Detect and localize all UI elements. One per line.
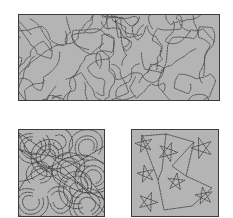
meander-stitch-line bbox=[111, 49, 196, 83]
paisley-swirl bbox=[19, 182, 53, 216]
paisley-swirl bbox=[50, 132, 68, 151]
paisley-stitch-line bbox=[19, 188, 47, 216]
star-connector-line bbox=[142, 134, 212, 210]
meander-stipple-panel: Meander stipple quilting pattern bbox=[18, 14, 220, 101]
paisley-swirl bbox=[21, 192, 42, 212]
meander-stitch-line bbox=[84, 17, 143, 34]
star-stitch bbox=[160, 143, 178, 162]
star-stitch bbox=[191, 138, 211, 159]
paisley-swirl bbox=[19, 188, 47, 216]
star-stitch bbox=[135, 135, 152, 152]
star-stitch-pattern bbox=[132, 130, 218, 216]
meander-stitch-line bbox=[139, 26, 163, 83]
meander-stitch-line bbox=[72, 15, 113, 54]
meander-stitch-line bbox=[32, 86, 64, 100]
meander-stitch-line bbox=[19, 52, 60, 90]
meander-stitch-line bbox=[19, 77, 20, 100]
meander-stitch-line bbox=[19, 15, 63, 46]
paisley-stitch-pattern bbox=[19, 130, 104, 216]
meander-stitch-line bbox=[130, 76, 165, 98]
meander-stitch-line bbox=[36, 71, 78, 100]
meander-stitch-line bbox=[19, 19, 52, 59]
meander-stitch-line bbox=[149, 15, 191, 31]
meander-stitch-pattern bbox=[19, 15, 219, 100]
meander-stitch-line bbox=[88, 41, 115, 96]
paisley-stitch-line bbox=[19, 182, 53, 216]
meander-stitch-line bbox=[165, 22, 214, 76]
paisley-stitch-line bbox=[50, 132, 68, 151]
stars-panel: Meandering stars quilting pattern bbox=[131, 129, 219, 217]
meander-stitch-line bbox=[112, 64, 139, 97]
paisley-stitch-line bbox=[82, 167, 104, 189]
star-connector-line bbox=[172, 142, 194, 176]
star-stitch bbox=[195, 187, 212, 204]
meander-stitch-line bbox=[174, 74, 215, 100]
meander-stitch-line bbox=[84, 34, 115, 100]
star-stitch bbox=[168, 173, 185, 190]
star-stitch bbox=[140, 193, 158, 212]
meander-stitch-line bbox=[101, 21, 131, 51]
meander-stitch-line bbox=[141, 27, 214, 73]
paisley-stitch-line bbox=[21, 192, 42, 212]
paisley-swirl-panel: Paisley swirl quilting pattern bbox=[18, 129, 105, 217]
paisley-swirl bbox=[82, 167, 104, 189]
star-stitch bbox=[137, 165, 154, 182]
meander-stitch-line bbox=[66, 73, 135, 101]
